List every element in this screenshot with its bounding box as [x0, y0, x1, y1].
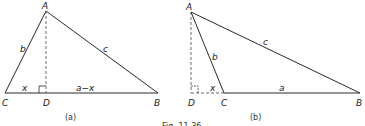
- right-angle-marker-b: [191, 86, 198, 93]
- figure-b-caption: (b): [250, 113, 261, 122]
- segment-x-label: x: [209, 83, 216, 93]
- vertex-d-label: D: [43, 98, 50, 108]
- right-angle-marker-a: [39, 86, 46, 93]
- vertex-a-label: A: [41, 1, 48, 11]
- side-b-label: b: [212, 52, 218, 62]
- side-c-label: c: [263, 37, 268, 47]
- segment-a-minus-x-label: a−x: [76, 83, 95, 93]
- vertex-d-label: D: [188, 98, 195, 108]
- vertex-b-label: B: [154, 98, 160, 108]
- vertex-a-label: A: [185, 2, 192, 12]
- segment-x-label: x: [21, 83, 28, 93]
- figure-a-caption: (a): [65, 113, 76, 122]
- side-c-a: [46, 11, 158, 93]
- figure-b: A D C B b c x a (b): [185, 2, 362, 122]
- side-c-label: c: [103, 44, 108, 54]
- vertex-c-label: C: [221, 98, 228, 108]
- side-b-b: [191, 12, 224, 93]
- figure-a: A C D B b c x a−x (a): [2, 1, 160, 122]
- vertex-c-label: C: [2, 98, 9, 108]
- figure-caption: Fig. 11.36: [162, 122, 201, 126]
- triangle-diagrams: A C D B b c x a−x (a) A D C B b c x a (b…: [0, 0, 365, 126]
- vertex-b-label: B: [356, 98, 362, 108]
- side-a-label: a: [279, 83, 285, 93]
- side-b-label: b: [20, 44, 26, 54]
